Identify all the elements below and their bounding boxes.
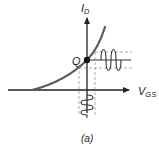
q-point-label: Q — [72, 55, 81, 67]
figure-caption: (a) — [81, 133, 93, 144]
transfer-characteristic-diagram: ID Q VGS (a) — [0, 0, 159, 153]
transfer-curve — [32, 27, 105, 90]
x-axis-label: VGS — [138, 85, 156, 99]
y-axis-label: ID — [81, 2, 90, 16]
